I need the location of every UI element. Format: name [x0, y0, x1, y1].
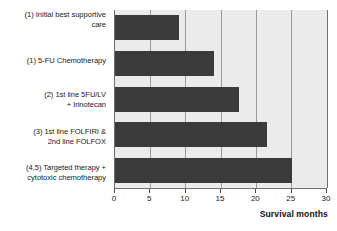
category-label-3: (3) 1st line FOLFIRI & 2nd line FOLFOX [0, 127, 106, 146]
category-label-0: (1) Initial best supportive care [0, 10, 106, 29]
bar-0 [115, 15, 179, 40]
x-tick-mark-25 [291, 189, 292, 193]
x-tick-label-0: 0 [102, 194, 126, 203]
x-tick-label-5: 5 [137, 194, 161, 203]
x-tick-label-30: 30 [314, 194, 337, 203]
x-tick-mark-30 [326, 189, 327, 193]
category-label-2: (2) 1st line 5FU/LV + Irinotecan [0, 90, 106, 109]
category-label-3-line-1: 2nd line FOLFOX [0, 137, 106, 147]
category-label-1-line-0: (1) 5-FU Chemotherapy [0, 56, 106, 66]
bar-2 [115, 87, 239, 112]
category-label-4: (4,5) Targeted therapy + cytotoxic chemo… [0, 163, 106, 182]
x-tick-label-10: 10 [173, 194, 197, 203]
category-label-2-line-1: + Irinotecan [0, 100, 106, 110]
x-axis-title: Survival months [260, 209, 328, 219]
bar-4 [115, 158, 292, 183]
category-axis-labels: (1) Initial best supportive care (1) 5-F… [0, 10, 110, 188]
category-label-2-line-0: (2) 1st line 5FU/LV [0, 90, 106, 100]
bar-3 [115, 122, 267, 147]
x-tick-mark-15 [220, 189, 221, 193]
category-label-0-line-0: (1) Initial best supportive [0, 10, 106, 20]
survival-months-bar-chart: (1) Initial best supportive care (1) 5-F… [0, 0, 337, 231]
x-tick-mark-5 [149, 189, 150, 193]
category-label-4-line-1: cytotoxic chemotherapy [0, 173, 106, 183]
x-tick-mark-0 [114, 189, 115, 193]
x-tick-mark-10 [185, 189, 186, 193]
gridline-30 [327, 10, 328, 188]
x-tick-mark-20 [255, 189, 256, 193]
category-label-1: (1) 5-FU Chemotherapy [0, 56, 106, 66]
bar-1 [115, 51, 214, 76]
x-tick-label-20: 20 [243, 194, 267, 203]
category-label-0-line-1: care [0, 20, 106, 30]
category-label-4-line-0: (4,5) Targeted therapy + [0, 163, 106, 173]
plot-area [114, 10, 327, 189]
x-tick-label-15: 15 [208, 194, 232, 203]
category-label-3-line-0: (3) 1st line FOLFIRI & [0, 127, 106, 137]
x-tick-label-25: 25 [279, 194, 303, 203]
